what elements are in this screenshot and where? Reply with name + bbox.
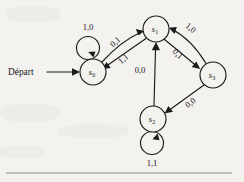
start-label: Départ [8,67,34,77]
edge-label-s2-s1: 0,0 [135,65,146,75]
start-arrow [47,68,80,76]
state-diagram: s0 s1 s2 s3 Départ 1,0 0,1 1,1 1,0 0,1 0… [0,0,244,182]
transition-s2-s2 [141,132,164,155]
figure-root: s0 s1 s2 s3 Départ 1,0 0,1 1,1 1,0 0,1 0… [0,0,244,182]
edge-label-s1-s3: 0,1 [171,46,186,61]
edge-label-s2-self: 1,1 [147,158,158,168]
transition-s2-s1 [152,42,160,106]
edge-label-s1-s0: 1,1 [116,51,131,66]
transition-s3-s2 [165,85,204,114]
edge-label-s3-s1: 1,0 [184,20,199,35]
edge-label-s3-s2: 0,0 [183,95,198,109]
edge-label-s0-self: 1,0 [83,22,94,32]
transition-s0-s0 [77,37,100,60]
edge-label-s0-s1: 0,1 [108,34,123,49]
